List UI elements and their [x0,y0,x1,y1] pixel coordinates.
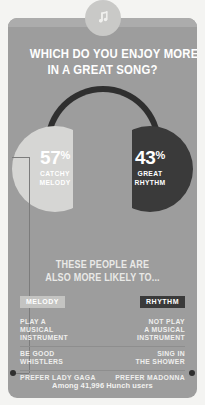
comparison-panel: MELODY RHYTHM PLAY A MUSICAL INSTRUMENT … [20,296,185,391]
stat-melody-label: CATCHY MELODY [16,169,93,187]
stat-rhythm-value: 43% [107,148,193,167]
headline-line-1: WHICH DO YOU ENJOY MORE [30,46,175,62]
tag-rhythm: RHYTHM [140,296,185,308]
row-melody-cell: PREFER LADY GAGA [20,374,94,382]
page-title: WHICH DO YOU ENJOY MORE IN A GREAT SONG? [30,46,175,77]
percent-symbol: % [61,149,70,161]
stat-melody: 57% CATCHY MELODY [12,148,98,187]
comparison-row: PLAY A MUSICAL INSTRUMENT NOT PLAY A MUS… [20,315,185,346]
infographic-card: WHICH DO YOU ENJOY MORE IN A GREAT SONG?… [8,18,197,398]
bracket-dot-right [189,370,195,376]
percent-symbol: % [156,149,165,161]
row-rhythm-cell: PREFER MADONNA [111,374,185,382]
bracket-dot-left [10,370,16,376]
section-subtitle: THESE PEOPLE ARE ALSO MORE LIKELY TO... [28,258,177,283]
comparison-header: MELODY RHYTHM [20,296,185,309]
comparison-rows: PLAY A MUSICAL INSTRUMENT NOT PLAY A MUS… [20,315,185,386]
music-note-icon [85,0,121,36]
stat-rhythm: 43% GREAT RHYTHM [107,148,193,187]
row-melody-cell: BE GOOD WHISTLERS [20,350,94,366]
subhead-line-1: THESE PEOPLE ARE [28,258,177,271]
row-rhythm-cell: NOT PLAY A MUSICAL INSTRUMENT [111,318,185,342]
infographic-canvas: WHICH DO YOU ENJOY MORE IN A GREAT SONG?… [0,0,205,405]
subhead-line-2: ALSO MORE LIKELY TO... [28,271,177,284]
row-rhythm-cell: SING IN THE SHOWER [111,350,185,366]
tag-melody: MELODY [20,296,65,308]
row-melody-cell: PLAY A MUSICAL INSTRUMENT [20,318,94,342]
stat-melody-value: 57% [12,148,98,167]
stat-rhythm-label: GREAT RHYTHM [111,169,188,187]
comparison-row: PREFER LADY GAGA PREFER MADONNA [20,370,185,386]
comparison-row: BE GOOD WHISTLERS SING IN THE SHOWER [20,346,185,370]
headline-line-2: IN A GREAT SONG? [30,62,175,78]
